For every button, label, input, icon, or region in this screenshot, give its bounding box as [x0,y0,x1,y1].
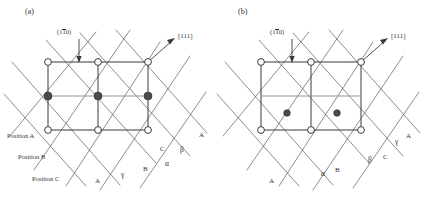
trace-label-a1: A [95,178,100,185]
miller-plane-label: (110) [57,29,71,36]
trace-line [259,40,369,163]
trace-label-a1: A [269,178,274,185]
position-label-a: Position A [7,133,34,140]
filled-atom-group [284,110,341,117]
open-node [258,127,265,134]
open-node [45,127,52,134]
filled-atom [94,92,102,100]
filled-atom [284,110,291,117]
trace-label-beta: β [368,156,372,164]
panel-a-lattice [0,0,213,197]
position-label-b: Position B [18,154,45,161]
plane-normal-arrow [76,39,81,63]
trace-label-c: C [383,154,388,161]
filled-atom [334,110,341,117]
overbar [275,29,278,30]
open-node [308,59,315,66]
trace-line [116,30,207,133]
open-node [308,127,315,134]
filled-atom [144,92,152,100]
trace-label-gamma: γ [121,171,124,179]
miller-plane-label: (110) [270,29,284,36]
direction-arrow-111 [361,38,388,62]
trace-label-a2: A [406,133,411,140]
open-node [95,127,102,134]
trace-line [329,30,420,133]
miller-overbar-wrap: 1 [275,29,278,36]
panel-a: (a) (110) [111] Position A Position B Po… [0,0,213,197]
open-node [95,59,102,66]
open-node [145,59,152,66]
position-label-c: Position C [32,176,59,183]
open-node [45,59,52,66]
miller-suffix: 0) [279,28,284,35]
panel-tag: (a) [25,8,34,16]
miller-overbar-wrap: 1 [62,29,65,36]
filled-atom [44,92,52,100]
trace-line [46,40,156,163]
open-node [258,59,265,66]
trace-line [217,94,299,186]
trace-label-alpha: α [321,170,325,178]
open-node [358,59,365,66]
direction-label: [111] [178,33,193,40]
plane-normal-arrow [289,39,294,63]
trace-label-alpha: α [165,160,169,168]
panel-tag: (b) [238,8,247,16]
trace-label-a2: A [199,132,204,139]
trace-line [4,94,86,186]
trace-label-b: B [143,166,148,173]
trace-line [353,92,419,188]
open-node [358,127,365,134]
miller-suffix: 0) [66,28,71,35]
trace-line [140,92,206,188]
panel-b: (b) (110) [111] A α B β C γ A [213,0,426,197]
trace-line [313,56,403,190]
stacking-fault-figure: (a) (110) [111] Position A Position B Po… [0,0,426,197]
open-node [145,127,152,134]
direction-arrow-111 [148,38,175,62]
trace-label-gamma: γ [395,138,398,146]
trace-label-c: C [160,146,165,153]
trace-label-beta: β [180,146,184,154]
trace-label-b: B [335,167,340,174]
direction-label: [111] [391,33,406,40]
overbar [62,29,65,30]
panel-b-lattice [213,0,426,197]
